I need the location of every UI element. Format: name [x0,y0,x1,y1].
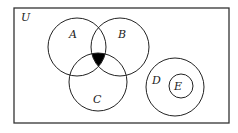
set-c-label: C [93,93,102,106]
set-a-circle [48,18,106,76]
set-b-label: B [117,28,126,41]
set-b-circle [91,18,149,76]
universe-label: U [21,11,31,24]
set-d-label: D [151,74,161,87]
set-a-label: A [68,28,77,41]
set-e-label: E [173,80,182,93]
venn-diagram: U A B C D E [0,0,238,133]
